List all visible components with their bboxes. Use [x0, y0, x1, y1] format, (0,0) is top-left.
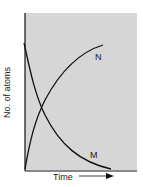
time-arrow-head-icon: [106, 173, 114, 179]
y-axis-label: No. of atoms: [2, 58, 12, 118]
x-axis-label: Time: [53, 172, 73, 182]
curve-n-label: N: [95, 52, 102, 62]
chart: No. of atoms Time N M: [0, 0, 143, 187]
plot-svg: [0, 0, 143, 187]
curve-m-label: M: [90, 150, 98, 160]
